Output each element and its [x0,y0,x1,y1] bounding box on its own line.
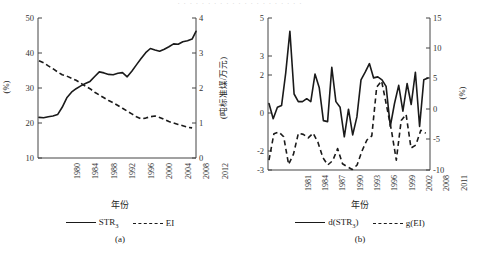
panel-b-y2tick-10: 10 [433,43,455,53]
panel-b-y2tick-0: 0 [433,104,455,114]
panel-a-xtick-1980: 1980 [73,163,82,193]
legend-item-ei: EI [133,217,175,228]
dashed-line-swatch-icon [133,223,163,224]
legend-label-str3: STR [99,217,116,227]
dashed-line-swatch-icon [373,223,403,224]
solid-line-swatch-icon [66,222,96,223]
panel-b-ytick-neg2: -2 [240,146,264,156]
panel-b-caption: (b) [240,234,480,244]
panel-a-y2tick-2: 2 [199,83,213,93]
panel-b-ytick-2: 2 [242,70,264,80]
panel-a-ytick-40: 40 [10,48,34,58]
panel-a-y2tick-0: 0 [199,153,213,163]
panel-b-y2tick-5: 5 [433,73,455,83]
panel-b-ytick-0: 0 [242,108,264,118]
panel-a: 50 40 30 20 10 4 3 2 1 0 (%) (吨标准煤/万元) 1… [0,10,240,267]
panel-a-ytick-30: 30 [10,83,34,93]
panel-b-y2tick-15: 15 [433,13,455,23]
legend-item-d-str3: d(STR3) [295,217,358,229]
legend-label-ei: EI [166,218,175,228]
panel-a-xtick-1984: 1984 [91,163,100,193]
panel-a-legend: STR3 EI [0,217,240,229]
panel-b-y2tick-neg5: -5 [433,134,455,144]
panel-a-xtick-2004: 2004 [184,163,193,193]
legend-item-g-ei: g(EI) [373,217,425,228]
panel-a-ytick-10: 10 [10,153,34,163]
legend-item-str3: STR3 [66,217,119,229]
panel-a-xaxis-name: 年份 [0,198,240,211]
panel-b-right-ticks [426,18,430,170]
series-d-str3 [269,31,428,137]
panel-a-axes [38,18,196,158]
panel-b-legend: d(STR3) g(EI) [240,217,480,229]
panel-a-left-ticks [38,18,42,158]
panel-a-y2tick-4: 4 [199,13,213,23]
top-cropped-text: · · · · · · · · · · · · · · · · · · · · … [0,0,480,8]
panel-b-ytick-neg3: -3 [240,165,264,175]
panel-a-left-axis-title: (%) [1,72,11,102]
panel-a-xtick-1996: 1996 [147,163,156,193]
panel-a-xtick-2008: 2008 [202,163,211,193]
panel-a-xtick-2012: 2012 [221,163,230,193]
panel-b-ytick-5: 5 [242,13,264,23]
legend-sub-str3: 3 [115,222,118,229]
panel-b-xaxis-name: 年份 [240,198,480,211]
panel-a-right-axis-title: (吨标准煤/万元) [216,43,228,133]
panel-a-xtick-2000: 2000 [165,163,174,193]
legend-label-d-str3: d(STR [328,217,352,227]
series-ei [39,61,192,128]
panel-b: 5 3 2 0 -2 -3 15 10 5 0 -5 -10 (%) 1981 … [240,10,480,267]
panel-b-y2tick-neg10: -10 [433,165,459,175]
panel-a-ytick-50: 50 [10,13,34,23]
panel-b-ytick-3: 3 [242,51,264,61]
panel-a-xtick-1988: 1988 [110,163,119,193]
legend-label-g-ei: g(EI) [406,218,425,228]
figure-root: · · · · · · · · · · · · · · · · · · · · … [0,0,480,267]
panel-a-ytick-20: 20 [10,118,34,128]
solid-line-swatch-icon [295,222,325,223]
panel-a-caption: (a) [0,234,240,244]
panel-a-y2tick-1: 1 [199,118,213,128]
panel-b-right-axis-title: (%) [457,78,467,108]
series-g-ei [269,81,426,170]
panel-a-xtick-1992: 1992 [128,163,137,193]
legend-tail-d-str3: ) [356,217,359,227]
panel-a-y2tick-3: 3 [199,48,213,58]
